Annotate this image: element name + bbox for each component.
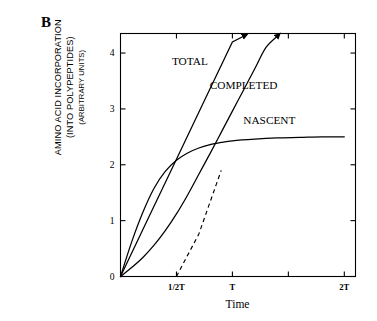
y-tick-label: 1 [110, 215, 115, 226]
series-completed-extrapolation [176, 170, 221, 276]
y-tick-label: 3 [110, 103, 115, 114]
plot-frame [121, 34, 356, 277]
y-tick-label: 0 [110, 271, 115, 282]
series-label-nascent: NASCENT [243, 114, 295, 126]
series-annotations: TOTALCOMPLETEDNASCENT [172, 55, 296, 126]
series-label-completed: COMPLETED [210, 79, 278, 91]
figure-panel: B AMINO ACID INCORPORATION (INTO POLYPEP… [0, 0, 377, 321]
series-completed [121, 36, 278, 276]
axis-ticks [121, 34, 356, 277]
x-tick-label: 1/2T [168, 282, 185, 292]
x-tick-label: T [230, 282, 236, 292]
x-tick-label: 2T [339, 282, 349, 292]
data-series [121, 36, 345, 276]
y-tick-label: 2 [110, 159, 115, 170]
x-tick-labels: 1/2TT2T [168, 282, 349, 292]
y-tick-label: 4 [110, 47, 115, 58]
series-label-total: TOTAL [172, 55, 208, 67]
plot-canvas: 01234 1/2TT2T TOTALCOMPLETEDNASCENT [0, 0, 377, 321]
y-tick-labels: 01234 [110, 47, 115, 281]
